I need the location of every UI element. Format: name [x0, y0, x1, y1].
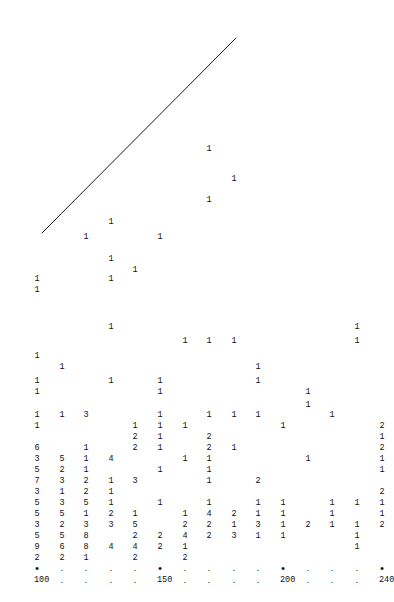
data-count-cell: 1: [107, 499, 115, 508]
data-count-cell: 1: [205, 411, 213, 420]
data-count-cell: 1: [33, 411, 41, 420]
data-count-cell: 1: [131, 422, 139, 431]
data-count-cell: 2: [254, 477, 262, 486]
data-count-cell: 1: [156, 422, 164, 431]
data-count-cell: 3: [33, 488, 41, 497]
data-count-cell: 1: [205, 466, 213, 475]
x-axis-major-tick: •: [378, 566, 386, 572]
data-count-cell: 1: [353, 532, 361, 541]
data-count-cell: 1: [230, 337, 238, 346]
data-count-cell: 5: [33, 532, 41, 541]
data-count-cell: 1: [378, 433, 386, 442]
x-axis-minor-tick: .: [304, 578, 312, 584]
data-count-cell: 1: [181, 510, 189, 519]
x-axis-minor-tick: .: [230, 566, 238, 572]
data-count-cell: 1: [378, 466, 386, 475]
data-count-cell: 3: [254, 521, 262, 530]
data-count-cell: 2: [82, 488, 90, 497]
data-count-cell: 1: [82, 466, 90, 475]
data-count-cell: 1: [230, 521, 238, 530]
data-count-cell: 1: [304, 388, 312, 397]
data-count-cell: 5: [58, 532, 66, 541]
data-count-cell: 2: [378, 422, 386, 431]
data-count-cell: 2: [131, 532, 139, 541]
data-count-cell: 4: [131, 543, 139, 552]
data-count-cell: 5: [33, 510, 41, 519]
data-count-cell: 2: [181, 554, 189, 563]
data-count-cell: 1: [58, 363, 66, 372]
data-count-cell: 1: [230, 444, 238, 453]
x-axis-minor-tick: .: [328, 578, 336, 584]
data-count-cell: 1: [82, 233, 90, 242]
data-count-cell: 6: [58, 543, 66, 552]
data-count-cell: 2: [82, 477, 90, 486]
data-count-cell: 1: [33, 422, 41, 431]
data-count-cell: 1: [353, 499, 361, 508]
data-count-cell: 1: [33, 275, 41, 284]
data-count-cell: 2: [131, 433, 139, 442]
data-count-cell: 1: [254, 377, 262, 386]
x-axis-minor-tick: .: [82, 566, 90, 572]
data-count-cell: 1: [131, 510, 139, 519]
x-axis-major-tick: •: [279, 566, 287, 572]
x-axis-minor-tick: .: [181, 578, 189, 584]
data-count-cell: 1: [378, 510, 386, 519]
x-axis-minor-tick: .: [82, 578, 90, 584]
data-count-cell: 9: [33, 543, 41, 552]
data-count-cell: 2: [378, 521, 386, 530]
x-axis-minor-tick: .: [353, 578, 361, 584]
data-count-cell: 1: [304, 401, 312, 410]
data-count-cell: 1: [353, 543, 361, 552]
data-count-cell: 1: [82, 510, 90, 519]
data-count-cell: 1: [254, 411, 262, 420]
data-count-cell: 5: [58, 455, 66, 464]
data-count-cell: 3: [82, 411, 90, 420]
x-axis-major-tick: •: [156, 566, 164, 572]
data-count-cell: 1: [156, 466, 164, 475]
x-axis-minor-tick: .: [107, 578, 115, 584]
data-count-cell: 1: [353, 337, 361, 346]
data-count-cell: 5: [33, 499, 41, 508]
data-count-cell: 1: [279, 510, 287, 519]
data-count-cell: 2: [33, 554, 41, 563]
x-axis-tick-label: 240: [379, 576, 394, 585]
x-axis-major-tick: •: [33, 566, 41, 572]
data-count-cell: 1: [279, 521, 287, 530]
data-count-cell: 1: [181, 543, 189, 552]
data-count-cell: 1: [58, 411, 66, 420]
data-count-cell: 2: [304, 521, 312, 530]
data-count-cell: 4: [107, 543, 115, 552]
x-axis-minor-tick: .: [230, 578, 238, 584]
data-count-cell: 2: [156, 532, 164, 541]
data-count-cell: 2: [131, 444, 139, 453]
data-count-cell: 3: [82, 521, 90, 530]
data-count-cell: 3: [107, 521, 115, 530]
data-count-cell: 1: [107, 477, 115, 486]
data-count-cell: 8: [82, 543, 90, 552]
data-count-cell: 1: [156, 499, 164, 508]
data-count-cell: 2: [230, 510, 238, 519]
data-count-cell: 1: [205, 145, 213, 154]
data-count-cell: 1: [205, 499, 213, 508]
data-count-cell: 2: [131, 554, 139, 563]
data-count-cell: 1: [279, 532, 287, 541]
data-count-cell: 1: [156, 433, 164, 442]
x-axis-minor-tick: .: [353, 566, 361, 572]
x-axis-minor-tick: .: [205, 578, 213, 584]
data-count-cell: 1: [353, 323, 361, 332]
data-count-cell: 1: [107, 255, 115, 264]
data-count-cell: 2: [205, 433, 213, 442]
data-count-cell: 1: [254, 499, 262, 508]
data-count-cell: 1: [131, 266, 139, 275]
data-count-cell: 1: [328, 510, 336, 519]
data-count-cell: 1: [181, 422, 189, 431]
data-count-cell: 1: [107, 275, 115, 284]
data-count-cell: 3: [33, 455, 41, 464]
data-count-cell: 3: [131, 477, 139, 486]
data-count-cell: 4: [107, 455, 115, 464]
data-count-cell: 4: [181, 532, 189, 541]
data-count-cell: 3: [58, 477, 66, 486]
x-axis-minor-tick: .: [58, 578, 66, 584]
x-axis-minor-tick: .: [328, 566, 336, 572]
data-count-cell: 2: [205, 444, 213, 453]
